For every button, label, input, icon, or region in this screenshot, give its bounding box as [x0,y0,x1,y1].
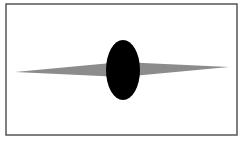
diagram-canvas [0,0,242,142]
black-ellipse [106,40,140,100]
